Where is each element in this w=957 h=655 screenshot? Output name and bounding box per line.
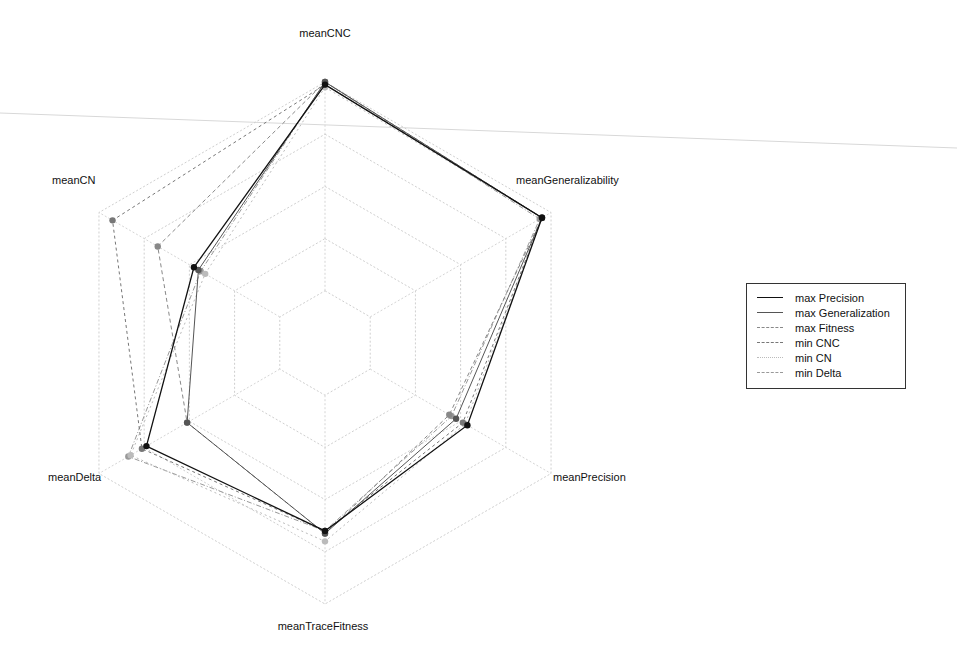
legend-line-swatch [757, 342, 783, 343]
legend-label: min CNC [795, 337, 840, 349]
series-max-precision [146, 85, 542, 531]
data-point [191, 264, 197, 270]
axis-label-meanprecision: meanPrecision [553, 471, 626, 483]
legend-line-swatch [757, 312, 783, 313]
legend-label: max Precision [795, 292, 864, 304]
legend-line-swatch [757, 372, 783, 373]
data-point [322, 528, 328, 534]
data-point [322, 81, 328, 87]
data-point [127, 452, 133, 458]
data-point [322, 538, 328, 544]
legend-item: min CN [757, 350, 905, 365]
legend-item: max Fitness [757, 320, 905, 335]
axis-label-meandelta: meanDelta [48, 471, 102, 483]
radar-series [109, 79, 545, 545]
legend-label: min Delta [795, 367, 841, 379]
data-point [143, 443, 149, 449]
data-point [446, 412, 452, 418]
data-point [184, 419, 190, 425]
legend-label: max Fitness [795, 322, 854, 334]
data-point [464, 422, 470, 428]
data-point [109, 217, 115, 223]
legend-label: max Generalization [795, 307, 890, 319]
data-point [539, 215, 545, 221]
legend-item: min Delta [757, 365, 905, 380]
series-min-cnc [113, 85, 542, 531]
legend-item: max Precision [757, 290, 905, 305]
grid-ring-1 [280, 291, 370, 395]
legend-item: max Generalization [757, 305, 905, 320]
stray-scan-line [0, 113, 957, 148]
legend-line-swatch [757, 327, 783, 328]
series-max-generalization [187, 82, 542, 534]
series-min-cn [131, 87, 542, 541]
axis-label-meangeneralizability: meanGeneralizability [516, 174, 619, 186]
axis-label-meancnc: meanCNC [299, 27, 350, 39]
data-point [453, 415, 459, 421]
legend-label: min CN [795, 352, 832, 364]
legend-line-swatch [757, 357, 783, 358]
data-point [155, 243, 161, 249]
legend-line-swatch [757, 297, 783, 298]
series-max-fitness [158, 82, 542, 534]
axis-label-meancn: meanCN [52, 174, 95, 186]
chart-legend: max Precisionmax Generalizationmax Fitne… [746, 283, 906, 389]
axis-label-meantracefitness: meanTraceFitness [278, 620, 369, 632]
legend-item: min CNC [757, 335, 905, 350]
data-point [202, 271, 208, 277]
